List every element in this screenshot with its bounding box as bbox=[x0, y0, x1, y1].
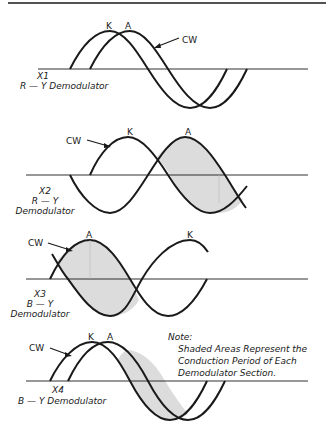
panel-x2-peak-a-label: A bbox=[185, 127, 191, 137]
note-line-2: Conduction Period of Each bbox=[178, 356, 297, 368]
panel-x2-peak-k-label: K bbox=[127, 127, 133, 137]
panel-x2-demodulator-label: Demodulator bbox=[15, 206, 75, 216]
note-line-3: Demodulator Section. bbox=[178, 368, 276, 380]
panel-x4-cw-label: CW bbox=[29, 343, 44, 353]
panel-x1-demodulator-label: R — Y Demodulator bbox=[20, 81, 108, 91]
panel-x1-peak-k-label: K bbox=[106, 21, 112, 31]
panel-x4-demodulator-label: B — Y Demodulator bbox=[18, 396, 106, 406]
demodulator-diagram: K A CW X1 R — Y Demodulator K A CW X2 R … bbox=[0, 0, 326, 435]
waveform-canvas bbox=[0, 0, 326, 435]
panel-x3-cw-label: CW bbox=[28, 238, 43, 248]
panel-x3-signal-label: B — Y bbox=[10, 299, 70, 309]
panel-x4-peak-k-label: K bbox=[88, 332, 94, 342]
panel-x3-demodulator-label: Demodulator bbox=[10, 309, 70, 319]
panel-x4-id-label: X4 bbox=[52, 385, 64, 395]
panel-x1-id-label: X1 bbox=[37, 71, 49, 81]
panel-x2-cw-label: CW bbox=[66, 136, 81, 146]
panel-x1-cw-label: CW bbox=[182, 35, 197, 45]
note-heading: Note: bbox=[168, 332, 192, 344]
panel-x3-peak-k-label: K bbox=[187, 230, 193, 240]
panel-x4-peak-a-label: A bbox=[107, 332, 113, 342]
panel-x3-peak-a-label: A bbox=[86, 230, 92, 240]
panel-x3-id-label: X3 bbox=[10, 289, 70, 299]
panel-x2-id-label: X2 bbox=[15, 186, 75, 196]
panel-x1-peak-a-label: A bbox=[125, 21, 131, 31]
panel-x2-signal-label: R — Y bbox=[15, 196, 75, 206]
panel-x1-waves bbox=[38, 31, 308, 108]
note-line-1: Shaded Areas Represent the bbox=[178, 344, 307, 356]
